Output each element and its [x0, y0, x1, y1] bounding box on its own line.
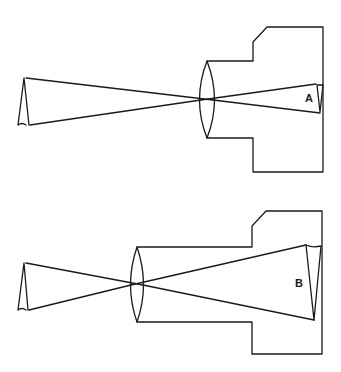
ray-a-top-in [26, 78, 213, 100]
diagram-a [18, 27, 323, 172]
image-b [306, 245, 321, 320]
ray-a-bottom-in [30, 100, 201, 125]
ray-b-bottom-in [29, 285, 131, 310]
ray-a-bottom-out [201, 84, 316, 100]
camera-optics-diagram [0, 0, 341, 372]
object-b [18, 263, 28, 310]
image-a [317, 85, 323, 112]
ray-b-top-in [26, 263, 143, 285]
label-b: B [295, 277, 303, 289]
diagram-b [18, 211, 322, 354]
ray-b-top-out [143, 285, 314, 320]
ray-a-top-out [213, 100, 320, 113]
ray-b-bottom-out [131, 245, 306, 285]
label-a: A [305, 92, 313, 104]
object-a [18, 78, 29, 125]
